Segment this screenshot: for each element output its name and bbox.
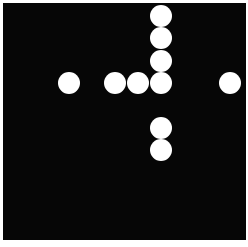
white-dot <box>150 5 172 27</box>
white-dot <box>150 27 172 49</box>
white-dot <box>127 72 149 94</box>
white-dot <box>104 72 126 94</box>
black-board <box>3 3 246 240</box>
white-dot <box>150 72 172 94</box>
white-dot <box>150 50 172 72</box>
white-dot <box>150 117 172 139</box>
white-dot <box>58 72 80 94</box>
white-dot <box>150 139 172 161</box>
white-dot <box>219 72 241 94</box>
